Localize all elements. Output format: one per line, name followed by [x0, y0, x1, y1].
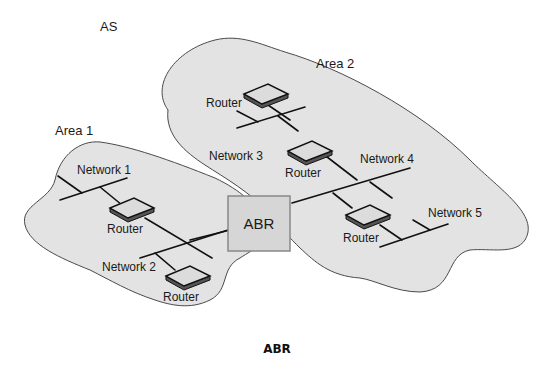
router-label: Router — [285, 166, 321, 180]
router-label: Router — [343, 231, 379, 245]
network-4-label: Network 4 — [360, 152, 414, 166]
area-1-label: Area 1 — [55, 123, 93, 138]
network-2-label: Network 2 — [102, 260, 156, 274]
router-label: Router — [107, 222, 143, 236]
abr-label: ABR — [244, 215, 275, 232]
network-5-label: Network 5 — [428, 206, 482, 220]
as-label: AS — [100, 19, 118, 34]
network-1-label: Network 1 — [77, 163, 131, 177]
ospf-area-diagram: AS Area 1 Area 2 — [0, 0, 555, 375]
figure-caption: ABR — [263, 342, 291, 356]
area-2-label: Area 2 — [316, 56, 354, 71]
router-label: Router — [163, 290, 199, 304]
network-3-label: Network 3 — [209, 149, 263, 163]
router-label: Router — [206, 96, 242, 110]
